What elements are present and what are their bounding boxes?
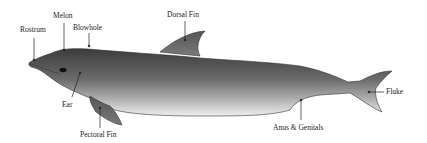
- label-fluke: Fluke: [386, 88, 403, 96]
- label-melon: Melon: [53, 12, 73, 20]
- label-blowhole: Blowhole: [73, 24, 102, 32]
- dorsal-fin-shape: [160, 31, 205, 56]
- label-pectoral-fin: Pectoral Fin: [80, 131, 116, 139]
- label-dorsal-fin: Dorsal Fin: [167, 11, 199, 19]
- eye-shape: [60, 68, 67, 72]
- dolphin-illustration: [0, 0, 427, 143]
- label-anus-genitals: Anus & Genitals: [273, 124, 323, 132]
- dolphin-anatomy-diagram: Rostrum Melon Blowhole Dorsal Fin Ear Pe…: [0, 0, 427, 143]
- label-rostrum: Rostrum: [20, 26, 46, 34]
- label-ear: Ear: [62, 101, 72, 109]
- dolphin-body-shape: [29, 49, 392, 116]
